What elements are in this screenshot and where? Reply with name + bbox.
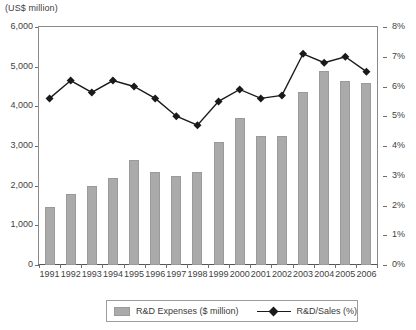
right-tick-mark [383, 265, 387, 266]
legend-label-rd-sales: R&D/Sales (%) [297, 306, 358, 316]
marker-2001 [257, 94, 265, 102]
right-tick-label: 2% [392, 201, 405, 210]
right-axis: 8%7%6%5%4%3%2%1%0% [383, 0, 416, 330]
right-tick-mark [383, 57, 387, 58]
line-series-layer [39, 27, 377, 265]
marker-1993 [88, 88, 96, 96]
left-tick-label: 2,000 [10, 181, 33, 190]
x-tick-mark [102, 264, 103, 268]
left-tick-label: 6,000 [10, 22, 33, 31]
rd-sales-line [39, 27, 377, 265]
right-tick-mark [383, 116, 387, 117]
x-tick-mark [81, 264, 82, 268]
marker-2003 [299, 50, 307, 58]
right-tick-label: 0% [392, 260, 405, 269]
legend-item-rd-sales: R&D/Sales (%) [257, 306, 358, 316]
right-tick-mark [383, 235, 387, 236]
marker-1995 [130, 83, 138, 91]
x-tick-mark [377, 264, 378, 268]
marker-2004 [320, 59, 328, 67]
left-tick-label: 4,000 [10, 101, 33, 110]
right-tick-mark [383, 87, 387, 88]
x-tick-label-2006: 2006 [352, 269, 380, 280]
x-tick-mark [145, 264, 146, 268]
rd-expenses-chart: (US$ million) 6,0005,0004,0003,0002,0001… [0, 0, 416, 330]
right-tick-label: 3% [392, 171, 405, 180]
left-axis: 6,0005,0004,0003,0002,0001,0000 [0, 0, 33, 330]
right-tick-label: 7% [392, 52, 405, 61]
x-tick-mark [335, 264, 336, 268]
x-tick-mark [39, 264, 40, 268]
x-tick-mark [208, 264, 209, 268]
line-diamond-icon [257, 307, 291, 316]
x-tick-mark [187, 264, 188, 268]
right-tick-label: 8% [392, 22, 405, 31]
right-tick-label: 5% [392, 111, 405, 120]
right-tick-label: 6% [392, 82, 405, 91]
rd-sales-polyline [50, 54, 367, 125]
legend-label-rd-expenses: R&D Expenses ($ million) [136, 306, 239, 316]
x-tick-mark [124, 264, 125, 268]
left-tick-label: 1,000 [10, 220, 33, 229]
marker-1994 [109, 77, 117, 85]
x-tick-mark [356, 264, 357, 268]
legend: R&D Expenses ($ million) R&D/Sales (%) [106, 300, 358, 322]
bar-swatch-icon [114, 307, 130, 316]
x-tick-mark [166, 264, 167, 268]
right-tick-mark [383, 146, 387, 147]
right-tick-mark [383, 206, 387, 207]
x-tick-mark [293, 264, 294, 268]
x-axis-labels: 1991199219931994199519961997199819992000… [39, 269, 377, 285]
left-tick-label: 5,000 [10, 62, 33, 71]
right-tick-mark [383, 27, 387, 28]
x-tick-mark [60, 264, 61, 268]
x-tick-mark [314, 264, 315, 268]
x-tick-mark [229, 264, 230, 268]
marker-2000 [236, 85, 244, 93]
x-tick-mark [250, 264, 251, 268]
right-tick-label: 1% [392, 230, 405, 239]
left-tick-label: 0 [28, 260, 33, 269]
right-tick-mark [383, 176, 387, 177]
legend-item-rd-expenses: R&D Expenses ($ million) [114, 306, 239, 316]
right-tick-label: 4% [392, 141, 405, 150]
marker-2002 [278, 91, 286, 99]
left-tick-label: 3,000 [10, 141, 33, 150]
x-tick-mark [271, 264, 272, 268]
